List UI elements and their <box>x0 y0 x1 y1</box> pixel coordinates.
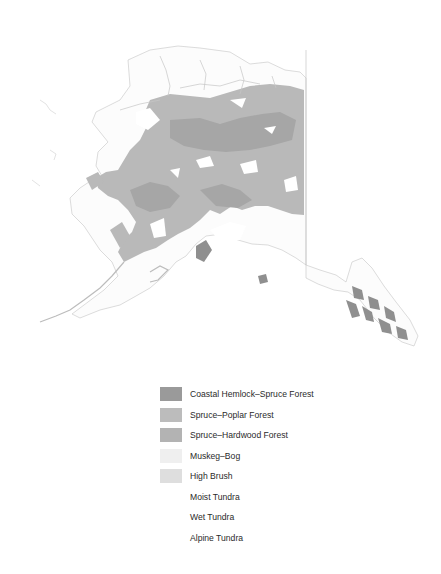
legend-swatch <box>160 408 182 422</box>
legend-item-wet-tundra: Wet Tundra <box>160 510 420 525</box>
western-islands <box>32 100 56 186</box>
legend-swatch <box>160 490 182 504</box>
legend-item-alpine-tundra: Alpine Tundra <box>160 531 420 546</box>
alaska-vegetation-map <box>0 0 441 380</box>
legend-swatch <box>160 469 182 483</box>
legend-swatch <box>160 449 182 463</box>
legend-swatch <box>160 428 182 442</box>
legend-label: High Brush <box>190 469 233 483</box>
legend-item-spruce-poplar-forest: Spruce–Poplar Forest <box>160 408 420 423</box>
legend-item-coastal-hemlock-spruce-forest: Coastal Hemlock–Spruce Forest <box>160 387 420 402</box>
legend-label: Coastal Hemlock–Spruce Forest <box>190 387 314 401</box>
legend-swatch <box>160 510 182 524</box>
legend-swatch <box>160 387 182 401</box>
legend-item-muskeg-bog: Muskeg–Bog <box>160 449 420 464</box>
legend-swatch <box>160 531 182 545</box>
legend-label: Muskeg–Bog <box>190 449 240 463</box>
legend-item-moist-tundra: Moist Tundra <box>160 490 420 505</box>
legend-item-spruce-hardwood-forest: Spruce–Hardwood Forest <box>160 428 420 443</box>
legend-item-high-brush: High Brush <box>160 469 420 484</box>
legend-label: Wet Tundra <box>190 510 234 524</box>
legend-label: Spruce–Hardwood Forest <box>190 428 288 442</box>
legend-label: Moist Tundra <box>190 490 240 504</box>
legend-label: Spruce–Poplar Forest <box>190 408 274 422</box>
legend-label: Alpine Tundra <box>190 531 243 545</box>
